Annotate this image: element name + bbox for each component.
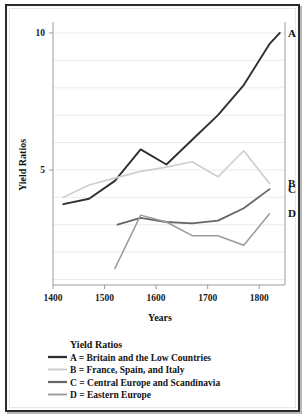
x-axis-title: Years bbox=[148, 312, 172, 323]
legend-title: Yield Ratios bbox=[70, 339, 122, 350]
x-tick-label: 1400 bbox=[44, 293, 63, 303]
data-series-line-A bbox=[63, 33, 280, 204]
legend-label-B: B = France, Spain, and Italy bbox=[70, 365, 185, 375]
data-series-line-C bbox=[117, 189, 269, 225]
x-tick-label: 1600 bbox=[147, 293, 166, 303]
series-end-label-C: C bbox=[288, 183, 296, 195]
data-series-group bbox=[63, 33, 280, 269]
x-tick-label: 1700 bbox=[198, 293, 217, 303]
legend-label-C: C = Central Europe and Scandinavia bbox=[70, 378, 220, 388]
data-series-line-D bbox=[115, 214, 270, 269]
gridlines-group bbox=[53, 33, 285, 280]
legend-label-D: D = Eastern Europe bbox=[70, 390, 151, 400]
x-tick-labels-group: 14001500160017001800 bbox=[44, 285, 269, 303]
y-tick-label: 10 bbox=[36, 28, 46, 38]
figure-root: 510 14001500160017001800 ABCD Yield Rati… bbox=[0, 0, 307, 420]
series-end-label-D: D bbox=[288, 207, 296, 219]
y-tick-labels-group: 510 bbox=[36, 28, 54, 175]
data-series-line-B bbox=[63, 151, 269, 198]
axes-group bbox=[53, 22, 285, 285]
y-axis-title: Yield Ratios bbox=[17, 139, 28, 191]
yield-ratios-line-chart: 510 14001500160017001800 ABCD Yield Rati… bbox=[0, 0, 307, 420]
x-tick-label: 1500 bbox=[95, 293, 114, 303]
series-end-label-A: A bbox=[288, 27, 296, 39]
legend-group: Yield RatiosA = Britain and the Low Coun… bbox=[48, 339, 220, 400]
x-tick-label: 1800 bbox=[250, 293, 269, 303]
legend-label-A: A = Britain and the Low Countries bbox=[70, 353, 211, 363]
y-tick-label: 5 bbox=[40, 165, 45, 175]
series-end-labels-group: ABCD bbox=[288, 27, 296, 219]
